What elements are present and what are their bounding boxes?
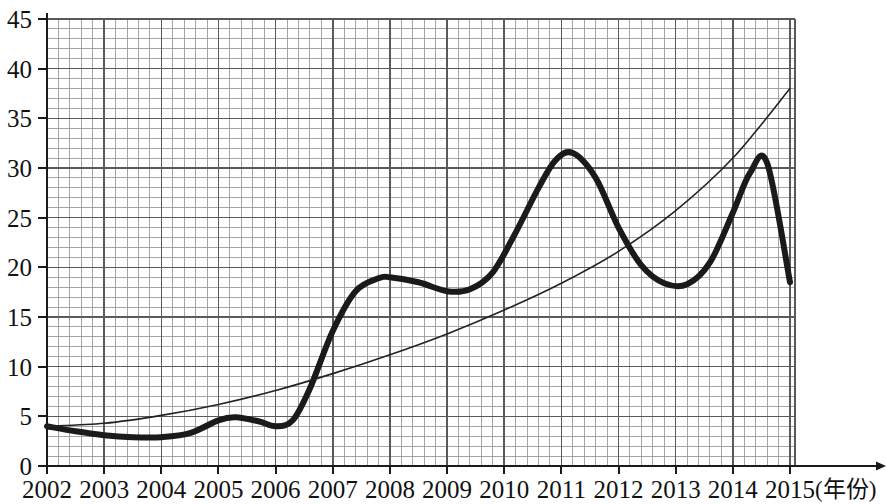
- x-tick-label: 2005: [193, 476, 243, 503]
- y-tick-label: 35: [7, 105, 32, 132]
- x-tick-label: 2007: [308, 476, 358, 503]
- y-tick-label: 15: [7, 304, 32, 331]
- y-tick-label: 25: [7, 205, 32, 232]
- y-tick-label: 30: [7, 155, 32, 182]
- x-tick-label: 2003: [79, 476, 129, 503]
- y-tick-label: 20: [7, 254, 32, 281]
- y-tick-label: 10: [7, 354, 32, 381]
- chart-background: [0, 0, 886, 504]
- x-tick-label: 2002: [22, 476, 72, 503]
- x-tick-label: 2014: [708, 476, 759, 503]
- x-tick-label: 2004: [136, 476, 187, 503]
- x-tick-label: 2012: [594, 476, 644, 503]
- x-tick-label: 2011: [537, 476, 586, 503]
- x-tick-label: 2008: [365, 476, 415, 503]
- x-axis-unit-label: (年份): [815, 477, 876, 502]
- x-tick-label: 2009: [422, 476, 472, 503]
- x-tick-label: 2015: [765, 476, 815, 503]
- x-tick-label: 2013: [651, 476, 701, 503]
- x-tick-label: 2006: [251, 476, 301, 503]
- y-tick-label: 5: [20, 403, 33, 430]
- y-tick-label: 45: [7, 6, 32, 33]
- line-chart: 051015202530354045 200220032004200520062…: [0, 0, 886, 504]
- y-tick-label: 40: [7, 56, 32, 83]
- x-axis-unit-label: (年份): [815, 477, 876, 502]
- chart-container: 051015202530354045 200220032004200520062…: [0, 0, 886, 504]
- x-tick-label: 2010: [479, 476, 529, 503]
